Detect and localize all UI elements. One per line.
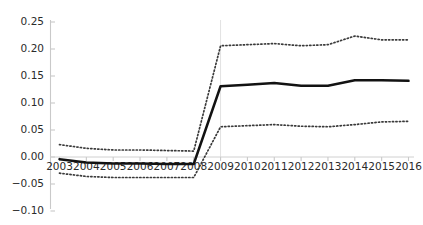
y-axis-tick-label: 0.15 [21, 69, 44, 81]
y-axis-tick-label: 0.00 [21, 150, 44, 162]
y-axis-tick-label: 0.20 [21, 42, 44, 54]
y-axis-tick-labels: −0.10−0.050.000.050.100.150.200.25 [12, 15, 44, 216]
y-axis-tick-label: −0.10 [12, 204, 44, 216]
series-upper-bound [60, 36, 409, 151]
y-axis-tick-label: 0.10 [21, 96, 44, 108]
series-point-estimate [60, 80, 409, 164]
x-axis-tick-label: 2009 [207, 160, 234, 172]
x-axis-tick-label: 2014 [341, 160, 368, 172]
chart-container: −0.10−0.050.000.050.100.150.200.25 20032… [0, 0, 423, 225]
chart-series-group [60, 36, 409, 177]
x-axis-tick-labels: 2003200420052006200720082009201020112012… [46, 160, 422, 172]
y-axis-tick-label: 0.05 [21, 123, 44, 135]
y-axis-tick-label: 0.25 [21, 15, 44, 27]
y-axis-tick-marks [51, 22, 56, 211]
chart-axes: −0.10−0.050.000.050.100.150.200.25 20032… [12, 15, 422, 216]
x-axis-tick-label: 2012 [288, 160, 315, 172]
x-axis-tick-label: 2013 [315, 160, 342, 172]
x-axis-tick-label: 2003 [46, 160, 73, 172]
x-axis-tick-label: 2010 [234, 160, 261, 172]
x-axis-tick-label: 2006 [127, 160, 154, 172]
y-axis-tick-label: −0.05 [12, 177, 44, 189]
x-axis-tick-label: 2011 [261, 160, 288, 172]
line-chart: −0.10−0.050.000.050.100.150.200.25 20032… [0, 0, 423, 225]
x-axis-tick-label: 2016 [395, 160, 422, 172]
x-axis-tick-label: 2005 [100, 160, 127, 172]
x-axis-tick-label: 2007 [154, 160, 181, 172]
x-axis-tick-label: 2015 [368, 160, 395, 172]
